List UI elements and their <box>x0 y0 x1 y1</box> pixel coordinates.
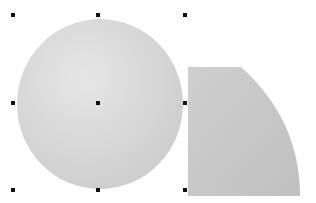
selection-handle-top-center[interactable] <box>96 13 100 17</box>
selection-handle-middle-right[interactable] <box>183 101 187 105</box>
quarter-shape[interactable] <box>188 67 300 196</box>
circle-shape[interactable] <box>17 19 183 189</box>
selection-handle-bottom-left[interactable] <box>11 188 15 192</box>
shapes-layer <box>0 0 316 203</box>
selection-handle-bottom-right[interactable] <box>183 188 187 192</box>
drawing-canvas[interactable] <box>0 0 316 203</box>
selection-handle-top-left[interactable] <box>11 13 15 17</box>
selection-handle-center[interactable] <box>96 101 100 105</box>
selection-handle-bottom-center[interactable] <box>96 188 100 192</box>
selection-handle-top-right[interactable] <box>183 13 187 17</box>
selection-handle-middle-left[interactable] <box>11 101 15 105</box>
